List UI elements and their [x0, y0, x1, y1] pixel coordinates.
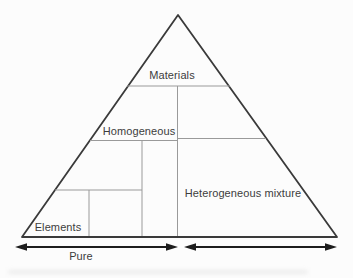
label-pure: Pure: [69, 250, 93, 262]
materials-classification-diagram: Materials Homogeneous Heterogeneous mixt…: [0, 0, 353, 278]
pure-span-arrow-icon: [15, 243, 178, 251]
triangle-outline: [22, 15, 337, 237]
mixture-span-arrow-icon: [184, 243, 337, 251]
label-homogeneous: Homogeneous: [103, 125, 176, 137]
label-materials: Materials: [149, 69, 195, 81]
diagram-canvas: [0, 0, 353, 278]
label-elements: Elements: [35, 221, 82, 233]
region-dividers: [55, 86, 266, 236]
scan-artifact: [8, 270, 308, 274]
label-heterogeneous-mixture: Heterogeneous mixture: [185, 187, 301, 199]
